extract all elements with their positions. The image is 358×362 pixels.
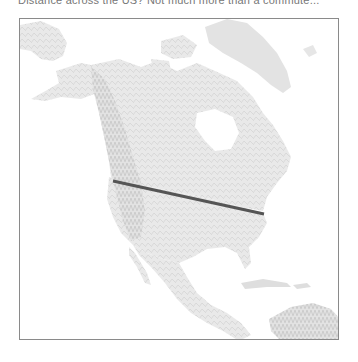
- south-america-landmass: [269, 303, 339, 340]
- map-frame: [19, 18, 339, 340]
- caribbean-islands: [241, 279, 311, 289]
- iceland: [303, 45, 317, 57]
- gulf-of-mexico: [191, 253, 241, 289]
- map-caption: Distance across the US? Not much more th…: [18, 0, 319, 6]
- north-america-map: [20, 19, 339, 340]
- arctic-islands: [151, 35, 197, 71]
- alaska-landmass: [20, 21, 67, 61]
